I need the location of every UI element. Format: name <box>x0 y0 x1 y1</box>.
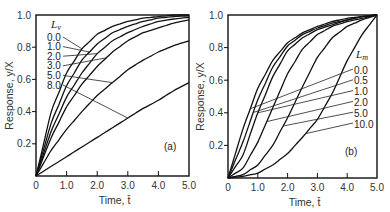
y-tick-label: 0.8 <box>17 42 31 53</box>
panel-label: (a) <box>164 141 176 152</box>
legend-label-5-0: 5.0 <box>354 108 368 119</box>
leader-line <box>63 54 97 57</box>
leader-line <box>283 112 353 126</box>
legend-title: Lv <box>50 18 61 32</box>
y-tick-label: 0.4 <box>17 106 31 117</box>
y-tick-label: 0.6 <box>17 74 31 85</box>
y-tick-label: 0.4 <box>209 107 223 118</box>
x-tick-label: 1.0 <box>251 182 265 193</box>
leader-line <box>267 101 353 121</box>
x-tick-label: 2.0 <box>281 182 295 193</box>
figure: 01.02.03.04.05.00.20.40.60.81.0Time, t̄R… <box>0 0 390 212</box>
x-tick-label: 4.0 <box>151 180 165 191</box>
panel-b: 01.02.03.04.05.00.20.40.60.81.0Time, t̄R… <box>194 10 384 209</box>
legend-label-1-0: 1.0 <box>354 86 368 97</box>
y-tick-label: 0.6 <box>209 75 223 86</box>
x-tick-label: 3.0 <box>310 182 324 193</box>
x-tick-label: 3.0 <box>121 180 135 191</box>
leader-line <box>63 85 128 118</box>
x-axis-label: Time, t̄ <box>99 194 131 206</box>
legend-label-0-5: 0.5 <box>354 75 368 86</box>
panel-a: 01.02.03.04.05.00.20.40.60.81.0Time, t̄R… <box>3 10 196 207</box>
leader-line <box>63 47 90 52</box>
x-axis-label: Time, t̄ <box>289 196 321 208</box>
legend-label-2-0: 2.0 <box>354 97 368 108</box>
leader-line <box>258 91 353 113</box>
x-tick-label: 0 <box>33 180 39 191</box>
legend-label-0-0: 0.0 <box>354 65 368 76</box>
series-line-8-0 <box>36 83 189 176</box>
x-tick-label: 2.0 <box>90 180 104 191</box>
legend-label-8-0: 8.0 <box>47 80 61 91</box>
y-tick-label: 0.2 <box>17 138 31 149</box>
y-axis-label: Response, y/X <box>194 62 206 130</box>
y-tick-label: 1.0 <box>17 10 31 21</box>
legend-title: Lm <box>355 48 368 62</box>
panel-label: (b) <box>345 146 357 157</box>
x-tick-label: 4.0 <box>340 182 354 193</box>
x-tick-label: 5.0 <box>182 180 196 191</box>
y-tick-label: 1.0 <box>209 10 223 21</box>
y-tick-label: 0.8 <box>209 42 223 53</box>
x-tick-label: 1.0 <box>60 180 74 191</box>
x-tick-label: 5.0 <box>370 182 384 193</box>
x-tick-label: 0 <box>225 182 231 193</box>
y-axis-label: Response, y/X <box>3 61 15 129</box>
y-tick-label: 0.2 <box>209 140 223 151</box>
legend-label-10-0: 10.0 <box>354 119 374 130</box>
